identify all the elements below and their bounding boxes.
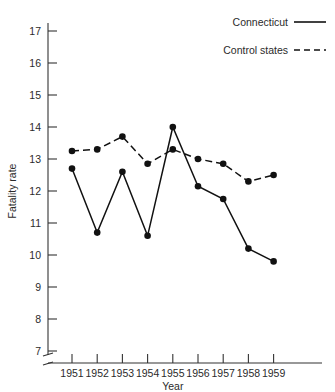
data-point-marker <box>270 258 277 265</box>
y-axis-tick-label: 13 <box>29 153 41 165</box>
y-axis-tick-label: 11 <box>30 217 41 229</box>
x-axis-tick-label: 1953 <box>111 367 135 379</box>
chart-figure: 7891011121314151617Fatality rate19511952… <box>0 0 335 392</box>
data-point-marker <box>170 124 177 131</box>
y-axis-title: Fatality rate <box>6 163 18 218</box>
data-point-marker <box>144 233 151 240</box>
x-axis-tick-label: 1956 <box>186 367 210 379</box>
data-point-marker <box>119 133 126 140</box>
data-point-marker <box>94 229 101 236</box>
data-point-marker <box>245 178 252 185</box>
legend-label-connecticut: Connecticut <box>233 16 289 28</box>
legend-label-control-states: Control states <box>223 44 288 56</box>
x-axis-tick-label: 1957 <box>212 367 236 379</box>
y-axis-tick-label: 15 <box>29 89 41 101</box>
x-axis-title: Year <box>162 380 184 392</box>
data-point-marker <box>170 146 177 153</box>
x-axis-tick-label: 1955 <box>161 367 185 379</box>
y-axis-tick-label: 10 <box>29 249 41 261</box>
x-axis-tick-label: 1958 <box>237 367 261 379</box>
y-axis-tick-label: 7 <box>35 345 41 357</box>
data-point-marker <box>220 161 227 168</box>
data-point-marker <box>94 146 101 153</box>
x-axis-tick-label: 1951 <box>60 367 84 379</box>
data-point-marker <box>195 156 202 163</box>
y-axis-tick-label: 8 <box>35 313 41 325</box>
data-point-marker <box>220 196 227 203</box>
y-axis-tick-label: 17 <box>29 25 41 37</box>
line-chart: 7891011121314151617Fatality rate19511952… <box>0 0 335 392</box>
data-point-marker <box>245 245 252 252</box>
data-point-marker <box>144 161 151 168</box>
y-axis-tick-label: 14 <box>29 121 41 133</box>
y-axis-tick-label: 16 <box>29 57 41 69</box>
data-point-marker <box>195 183 202 190</box>
data-point-marker <box>119 169 126 176</box>
data-point-marker <box>69 165 76 172</box>
x-axis-tick-label: 1952 <box>86 367 110 379</box>
data-point-marker <box>69 148 76 155</box>
y-axis-tick-label: 9 <box>35 281 41 293</box>
x-axis-tick-label: 1954 <box>136 367 160 379</box>
y-axis-tick-label: 12 <box>29 185 41 197</box>
series-line-control-states <box>72 137 274 182</box>
data-point-marker <box>270 172 277 179</box>
x-axis-tick-label: 1959 <box>262 367 286 379</box>
